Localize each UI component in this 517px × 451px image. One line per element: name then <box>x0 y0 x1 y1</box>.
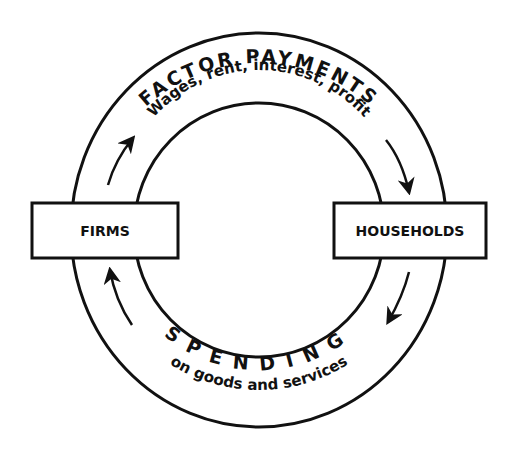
arrow-down-right-top-icon <box>386 140 409 192</box>
arrow-down-right-bottom-icon <box>388 272 409 322</box>
households-label: HOUSEHOLDS <box>356 223 465 239</box>
households-node: HOUSEHOLDS <box>334 203 486 258</box>
firms-label: FIRMS <box>80 223 130 239</box>
arrow-up-left-top-icon <box>108 138 133 185</box>
circular-flow-diagram: FIRMS HOUSEHOLDS FACTOR PAYMENTS Wages, … <box>0 0 517 451</box>
firms-node: FIRMS <box>32 203 178 258</box>
arrow-up-left-bottom-icon <box>110 270 132 325</box>
